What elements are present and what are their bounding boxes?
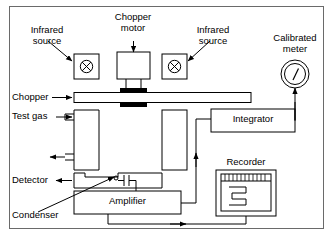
recorder-chart-ticks (225, 174, 265, 181)
label-chopper: Chopper (12, 92, 48, 103)
label-calibrated-meter: Calibrated meter (262, 33, 328, 54)
label-infrared-source-right-line2: source (182, 36, 244, 47)
label-infrared-source-left: Infrared source (16, 25, 78, 46)
label-infrared-source-left-line1: Infrared (16, 25, 78, 36)
calibrated-meter-dial (281, 60, 309, 88)
reference-cell (162, 110, 187, 170)
figure-root: Infrared source Chopper motor Infrared s… (0, 0, 335, 238)
label-test-gas: Test gas (12, 111, 47, 122)
label-calibrated-meter-line2: meter (262, 44, 328, 55)
label-chopper-motor: Chopper motor (102, 12, 164, 33)
label-calibrated-meter-line1: Calibrated (262, 33, 328, 44)
label-chopper-motor-line1: Chopper (102, 12, 164, 23)
calibrated-meter-scale (285, 64, 306, 85)
label-infrared-source-right-line1: Infrared (182, 25, 244, 36)
calibrated-meter-needle (293, 69, 299, 81)
chopper-motor-box (117, 52, 150, 79)
label-infrared-source-left-line2: source (16, 36, 78, 47)
label-detector: Detector (12, 175, 48, 186)
chopper-bar (74, 93, 251, 103)
test-gas-cell (74, 110, 99, 170)
recorder-trace (229, 187, 246, 205)
condenser-leader (38, 177, 114, 212)
label-recorder: Recorder (216, 157, 276, 168)
label-infrared-source-right: Infrared source (182, 25, 244, 46)
label-amplifier: Amplifier (74, 196, 181, 207)
figure-frame: Infrared source Chopper motor Infrared s… (9, 6, 324, 229)
label-integrator: Integrator (211, 114, 295, 125)
label-condenser: Condenser (12, 210, 58, 221)
label-chopper-motor-line2: motor (102, 23, 164, 34)
